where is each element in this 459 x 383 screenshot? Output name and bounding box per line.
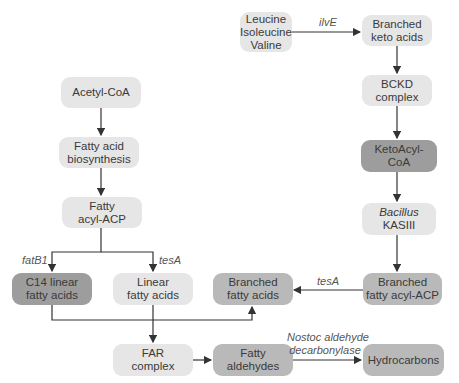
node-text: fatty acids <box>26 289 78 302</box>
node-linear-fatty-acids: Linear fatty acids <box>113 273 193 305</box>
edge-label-fatb1: fatB1 <box>22 254 48 267</box>
edge-label-tesa-left: tesA <box>159 254 181 267</box>
node-text: Isoleucine <box>240 26 292 39</box>
node-text: KASIII <box>383 219 416 232</box>
node-fatty-aldehydes: Fatty aldehydes <box>213 344 293 376</box>
node-text: Fatty acid <box>74 140 124 153</box>
node-text: FAR <box>142 347 164 360</box>
node-text: keto acids <box>371 31 423 44</box>
edge-label-nostoc: Nostoc aldehyde decarbonylase <box>287 331 363 357</box>
node-text: Acetyl-CoA <box>72 86 130 99</box>
node-branched-keto-acids: Branched keto acids <box>362 15 432 46</box>
node-text: Branched <box>378 276 427 289</box>
node-text: acyl-ACP <box>78 213 126 226</box>
node-leucine-isoleucine-valine: Leucine Isoleucine Valine <box>240 12 292 52</box>
node-text: Fatty <box>240 347 266 360</box>
node-text: fatty acyl-ACP <box>366 289 439 302</box>
node-acetyl-coa: Acetyl-CoA <box>61 77 141 108</box>
node-text: fatty acids <box>127 289 179 302</box>
node-text: Branched <box>372 18 421 31</box>
node-text: Valine <box>250 39 281 52</box>
node-far-complex: FAR complex <box>113 344 193 376</box>
node-branched-fatty-acyl-acp: Branched fatty acyl-ACP <box>363 273 442 305</box>
node-text: C14 linear <box>26 276 78 289</box>
node-text: Leucine <box>246 13 286 26</box>
node-bacillus-kasiii: Bacillus KASIII <box>362 203 436 235</box>
node-bckd-complex: BCKD complex <box>362 75 432 106</box>
node-text: fatty acids <box>227 289 279 302</box>
node-text: complex <box>376 91 419 104</box>
node-text: Fatty <box>89 200 115 213</box>
node-text: KetoAcyl-CoA <box>364 143 434 169</box>
edge-label-text: decarbonylase <box>287 344 363 357</box>
edge-label-ilve: ilvE <box>319 16 337 29</box>
node-text: BCKD <box>381 78 413 91</box>
node-ketoacyl-coa: KetoAcyl-CoA <box>361 140 437 172</box>
edge-label-tesa-right: tesA <box>317 275 339 288</box>
node-text: aldehydes <box>227 360 279 373</box>
node-fatty-acyl-acp: Fatty acyl-ACP <box>62 197 142 228</box>
edge-label-text: Nostoc aldehyde <box>287 331 363 344</box>
node-branched-fatty-acids: Branched fatty acids <box>213 273 293 305</box>
node-text: Branched <box>228 276 277 289</box>
node-fatty-acid-biosynthesis: Fatty acid biosynthesis <box>59 137 139 168</box>
node-text: Hydrocarbons <box>368 354 440 367</box>
node-c14-linear-fatty-acids: C14 linear fatty acids <box>12 273 92 305</box>
node-text: Bacillus <box>379 206 419 219</box>
node-hydrocarbons: Hydrocarbons <box>363 344 444 376</box>
node-text: Linear <box>137 276 169 289</box>
node-text: biosynthesis <box>67 153 130 166</box>
arrows-layer <box>0 0 459 383</box>
node-text: complex <box>132 360 175 373</box>
